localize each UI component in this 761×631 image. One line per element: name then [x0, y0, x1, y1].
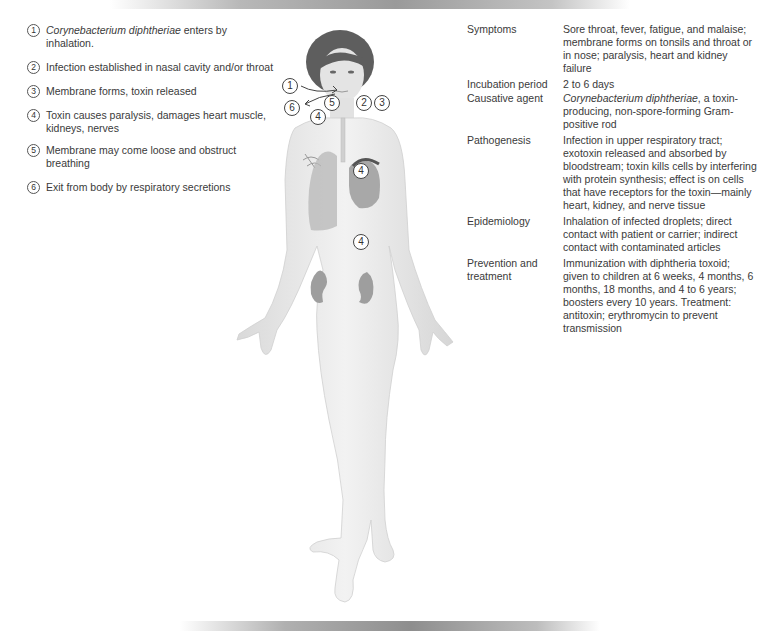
- step-number-circle: 1: [27, 24, 40, 37]
- marker-3: 3: [374, 95, 390, 111]
- info-row-epidemiology: Epidemiology Inhalation of infected drop…: [467, 215, 757, 254]
- marker-4-lymph: 4: [310, 109, 326, 125]
- info-row-prevention: Prevention and treatment Immunization wi…: [467, 257, 757, 335]
- info-row-pathogenesis: Pathogenesis Infection in upper respirat…: [467, 134, 757, 212]
- info-value: Immunization with diphtheria toxoid; giv…: [563, 257, 757, 335]
- top-decorative-bar: [110, 0, 630, 9]
- marker-6: 6: [284, 100, 300, 116]
- info-value: Sore throat, fever, fatigue, and malaise…: [563, 23, 757, 75]
- info-row-symptoms: Symptoms Sore throat, fever, fatigue, an…: [467, 23, 757, 75]
- marker-4-kidney: 4: [353, 234, 369, 250]
- info-value: 2 to 6 days: [563, 78, 757, 91]
- organism-name: Corynebacterium diphtheriae: [46, 24, 181, 36]
- bottom-decorative-bar: [180, 621, 600, 631]
- info-label: Epidemiology: [467, 215, 563, 254]
- step-number-circle: 3: [27, 85, 40, 98]
- human-body-figure: 1 6 5 2 3 4 4 4: [225, 20, 465, 620]
- step-number-circle: 2: [27, 61, 40, 74]
- info-label: Pathogenesis: [467, 134, 563, 212]
- organism-name: Corynebacterium diphtheriae: [563, 92, 698, 104]
- info-label: Prevention and treatment: [467, 257, 563, 335]
- info-label: Incubation period: [467, 78, 563, 91]
- info-row-incubation: Incubation period 2 to 6 days: [467, 78, 757, 91]
- body-silhouette: [237, 118, 453, 602]
- disease-info-table: Symptoms Sore throat, fever, fatigue, an…: [467, 23, 757, 338]
- marker-2: 2: [356, 95, 372, 111]
- info-row-causative-agent: Causative agent Corynebacterium diphther…: [467, 92, 757, 131]
- body-illustration: [225, 20, 465, 620]
- info-value: Corynebacterium diphtheriae, a toxin-pro…: [563, 92, 757, 131]
- info-label: Causative agent: [467, 92, 563, 131]
- info-value: Inhalation of infected droplets; direct …: [563, 215, 757, 254]
- step-number-circle: 6: [27, 181, 40, 194]
- marker-1: 1: [282, 78, 298, 94]
- info-value: Infection in upper respiratory tract; ex…: [563, 134, 757, 212]
- marker-5: 5: [324, 95, 340, 111]
- step-number-circle: 4: [27, 109, 40, 122]
- step-number-circle: 5: [27, 144, 40, 157]
- marker-4-heart: 4: [353, 163, 369, 179]
- info-label: Symptoms: [467, 23, 563, 75]
